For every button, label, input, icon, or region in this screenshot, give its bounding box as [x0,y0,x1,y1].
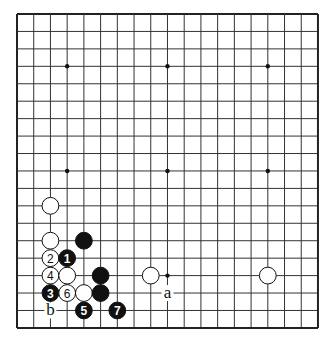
marker-b: b [44,300,56,319]
move-number: 4 [47,269,54,283]
black-stone-icon [92,285,109,302]
move-number: 2 [47,252,54,266]
white-stone [42,232,59,249]
star-point-icon [165,169,169,173]
move-number: 3 [47,287,54,301]
white-stone-icon [75,285,92,302]
white-stone [142,267,159,284]
black-stone: 7 [109,302,126,319]
marker-a: a [161,283,173,302]
move-number: 5 [81,304,88,318]
marker-label: b [46,300,55,319]
white-stone-icon [42,232,59,249]
black-stone: 1 [59,250,76,267]
white-stone-icon [42,197,59,214]
star-point-icon [65,169,69,173]
white-stone: 2 [42,250,59,267]
black-stone: 5 [75,302,92,319]
white-stone [259,267,276,284]
white-stone [59,267,76,284]
black-stone: 3 [42,285,59,302]
go-board: ab 2143657 [0,0,334,341]
black-stone-icon [92,267,109,284]
star-point-icon [65,64,69,68]
black-stone [92,267,109,284]
move-number: 7 [114,304,121,318]
white-stone-icon [142,267,159,284]
white-stone-icon [259,267,276,284]
white-stone: 6 [59,285,76,302]
white-stone-icon [59,267,76,284]
black-stone [75,232,92,249]
white-stone: 4 [42,267,59,284]
move-number: 6 [64,287,71,301]
black-stone-icon [75,232,92,249]
black-stone [92,285,109,302]
white-stone [42,197,59,214]
marker-label: a [164,283,172,302]
star-point-icon [266,169,270,173]
move-number: 1 [64,252,71,266]
star-point-icon [266,64,270,68]
star-point-icon [165,273,169,277]
white-stone [75,285,92,302]
star-point-icon [165,64,169,68]
